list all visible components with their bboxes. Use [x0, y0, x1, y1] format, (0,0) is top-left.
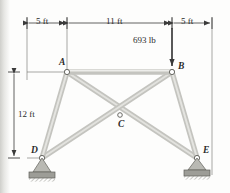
support-pin-E — [184, 158, 210, 180]
dim-label-5ft-right: 5 ft — [181, 17, 193, 26]
truss-drawing — [0, 0, 230, 193]
joint-label-C: C — [118, 120, 124, 130]
joint-label-B: B — [178, 62, 184, 72]
dim-label-5ft-left: 5 ft — [36, 17, 48, 26]
truss-figure: 5 ft 11 ft 5 ft 12 ft 693 lb A B C D E — [0, 0, 230, 193]
dim-label-11ft: 11 ft — [106, 17, 122, 26]
joint-label-D: D — [31, 146, 38, 156]
joint-label-E: E — [203, 146, 209, 156]
load-label: 693 lb — [133, 36, 156, 45]
member-A-B — [67, 71, 172, 72]
support-hatch-D — [29, 178, 55, 182]
joint-label-A: A — [59, 58, 65, 68]
support-base-E — [184, 170, 210, 176]
joint-pin-A — [64, 69, 69, 74]
dim-label-12ft: 12 ft — [18, 110, 35, 119]
support-pin-D — [29, 158, 55, 182]
support-hatch-E — [184, 176, 210, 180]
support-base-D — [29, 172, 55, 178]
joint-pin-C — [118, 113, 123, 118]
joint-pin-B — [169, 69, 174, 74]
